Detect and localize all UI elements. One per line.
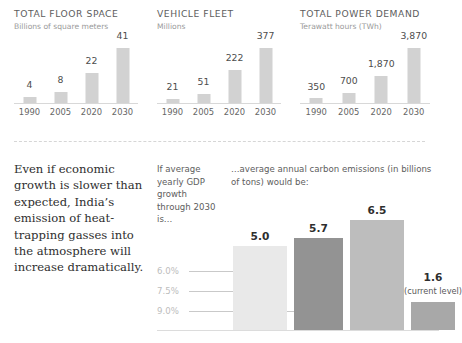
x-axis-labels: 1990 2005 2020 2030 bbox=[157, 107, 281, 121]
bar-note: (current level) bbox=[404, 286, 462, 296]
chart-title: TOTAL FLOOR SPACE bbox=[14, 8, 118, 19]
axis-baseline bbox=[300, 103, 430, 104]
emission-bar: 6.5 bbox=[350, 220, 404, 330]
emission-bar: 5.0 bbox=[233, 246, 287, 330]
chart-vehicle-fleet: VEHICLE FLEET Millions 21 51 222 377 bbox=[157, 0, 290, 126]
bar-value: 1.6 bbox=[424, 271, 443, 283]
bar bbox=[375, 76, 388, 103]
chart-emissions-by-gdp-growth: 6.0% 7.5% 9.0% 5.0 5.7 6.5 1.6 (current … bbox=[157, 205, 439, 339]
bar bbox=[259, 48, 272, 103]
bar bbox=[228, 70, 241, 103]
x-tick-label: 1990 bbox=[157, 107, 188, 117]
chart-subtitle: Terawatt hours (TWh) bbox=[300, 22, 382, 31]
bar bbox=[342, 93, 355, 103]
axis-baseline bbox=[14, 103, 138, 104]
bar bbox=[116, 48, 129, 103]
x-tick-label: 2030 bbox=[250, 107, 281, 117]
bar-value: 377 bbox=[257, 30, 275, 41]
chart-subtitle: Millions bbox=[157, 22, 185, 31]
chart-subtitle: Billions of square meters bbox=[14, 22, 108, 31]
gdp-rate-label: 9.0% bbox=[157, 306, 179, 316]
bar-value: 3,870 bbox=[400, 30, 427, 41]
chart-plot-area: 350 700 1,870 3,870 bbox=[300, 34, 439, 104]
x-tick-label: 2020 bbox=[76, 107, 107, 117]
bar-value: 5.7 bbox=[309, 222, 328, 234]
emissions-prompt-label: …average annual carbon emissions (in bil… bbox=[231, 163, 436, 188]
x-tick-label: 1990 bbox=[300, 107, 333, 117]
bar-value: 350 bbox=[307, 81, 325, 92]
bar-value: 41 bbox=[117, 30, 129, 41]
chart-title: VEHICLE FLEET bbox=[157, 8, 234, 19]
axis-baseline bbox=[157, 103, 281, 104]
bar bbox=[407, 48, 420, 103]
bar-value: 8 bbox=[58, 74, 64, 85]
chart-title: TOTAL POWER DEMAND bbox=[300, 8, 420, 19]
bar-value: 22 bbox=[86, 55, 98, 66]
gdp-rate-label: 7.5% bbox=[157, 286, 179, 296]
pull-quote: Even if economic growth is slower than e… bbox=[14, 161, 145, 276]
axis-baseline bbox=[157, 330, 439, 331]
bar-value: 51 bbox=[198, 76, 210, 87]
bar-value: 5.0 bbox=[251, 230, 270, 242]
x-tick-label: 2005 bbox=[45, 107, 76, 117]
chart-plot-area: 21 51 222 377 bbox=[157, 34, 290, 104]
emission-bar: 5.7 bbox=[294, 238, 343, 330]
x-tick-label: 2020 bbox=[219, 107, 250, 117]
bar-value: 4 bbox=[27, 79, 33, 90]
connector-line-6pct bbox=[189, 271, 236, 272]
x-tick-label: 2005 bbox=[188, 107, 219, 117]
bar bbox=[85, 73, 98, 103]
chart-total-floor-space: TOTAL FLOOR SPACE Billions of square met… bbox=[14, 0, 147, 126]
emission-bar-current-level: 1.6 (current level) bbox=[411, 302, 455, 330]
bar bbox=[197, 94, 210, 103]
bar-value: 6.5 bbox=[368, 204, 387, 216]
bar-value: 21 bbox=[167, 81, 179, 92]
x-axis-labels: 1990 2005 2020 2030 bbox=[14, 107, 138, 121]
section-divider bbox=[14, 141, 425, 142]
x-tick-label: 2020 bbox=[365, 107, 398, 117]
top-charts-row: TOTAL FLOOR SPACE Billions of square met… bbox=[0, 0, 439, 126]
bar-value: 700 bbox=[340, 75, 358, 86]
x-tick-label: 2030 bbox=[398, 107, 431, 117]
gdp-rate-label: 6.0% bbox=[157, 266, 179, 276]
bar-value: 222 bbox=[226, 52, 244, 63]
x-tick-label: 1990 bbox=[14, 107, 45, 117]
x-tick-label: 2030 bbox=[107, 107, 138, 117]
chart-plot-area: 4 8 22 41 bbox=[14, 34, 147, 104]
bar bbox=[54, 92, 67, 103]
x-axis-labels: 1990 2005 2020 2030 bbox=[300, 107, 430, 121]
x-tick-label: 2005 bbox=[333, 107, 366, 117]
chart-total-power-demand: TOTAL POWER DEMAND Terawatt hours (TWh) … bbox=[300, 0, 439, 126]
bar-value: 1,870 bbox=[368, 58, 395, 69]
